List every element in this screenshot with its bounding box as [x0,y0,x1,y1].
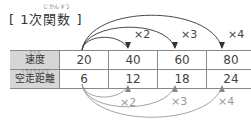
label-top-x3: ×3 [181,28,197,41]
row-header-distance: くうそうきょり 空走距離 [10,70,60,89]
label-bottom-x2: ×2 [120,96,136,109]
table-cell: 60 [158,51,207,70]
label-bottom-x3: ×3 [171,95,187,108]
table-cell: 6 [60,70,109,89]
label-top-x2: ×2 [134,28,150,41]
top-arrows [82,15,225,50]
table-row-distance: くうそうきょり 空走距離 6 12 18 24 [10,70,251,89]
arc-top-x4 [82,15,222,50]
function-table: そくど 速度 20 40 60 80 くうそうきょり 空走距離 6 12 18 … [10,50,251,89]
row-label: 速度 [25,54,45,65]
ruby-text: そくど [10,50,59,55]
table-cell: 80 [207,51,251,70]
table-cell: 24 [207,70,251,89]
arrowhead-icon [219,42,225,49]
table-row-speed: そくど 速度 20 40 60 80 [10,51,251,70]
table-cell: 40 [109,51,158,70]
arrowhead-icon [172,42,178,49]
label-bottom-x4: ×4 [218,95,234,108]
label-top-x4: ×4 [228,28,244,41]
table-cell: 12 [109,70,158,89]
table-cell: 18 [158,70,207,89]
row-label: 空走距離 [15,73,55,84]
ruby-text: くうそうきょり [10,69,59,74]
row-header-speed: そくど 速度 [10,51,60,70]
table-cell: 20 [60,51,109,70]
arc-top-x2 [82,37,128,50]
